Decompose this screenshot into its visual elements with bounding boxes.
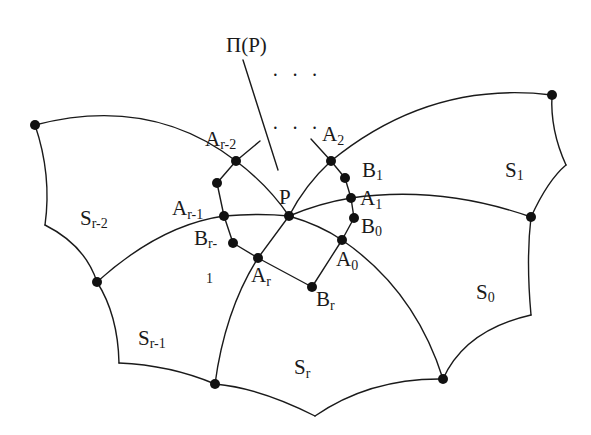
label-A-r-2: Ar-2 bbox=[205, 127, 236, 152]
node-A-2 bbox=[326, 156, 336, 166]
node-A-0 bbox=[337, 235, 347, 245]
node-outer-top-right bbox=[547, 90, 557, 100]
node-B-0 bbox=[349, 213, 359, 223]
label-pi-P: Π(P) bbox=[226, 33, 267, 57]
edge-outer-left-mid bbox=[45, 225, 97, 282]
label-B-r-1-stray-digit: 1 bbox=[206, 271, 213, 286]
edge-P-Ar bbox=[258, 216, 289, 258]
label-A-r: Ar bbox=[251, 263, 271, 289]
node-A-r-2 bbox=[231, 156, 241, 166]
node-P bbox=[284, 211, 294, 221]
node-outer-bottom-right bbox=[438, 374, 448, 384]
label-B-0: B0 bbox=[361, 214, 382, 239]
edge-P-Ar1 bbox=[224, 215, 289, 217]
node-A-r bbox=[253, 253, 263, 263]
node-A-1 bbox=[346, 193, 356, 203]
edge-outer-bottom-left bbox=[119, 363, 215, 384]
edge-outer-left-upper bbox=[35, 125, 47, 225]
edge-outer-bottom-right bbox=[443, 315, 531, 379]
label-S-r: Sr bbox=[294, 355, 311, 381]
edge-outer-left-lower bbox=[97, 282, 119, 363]
edge-outer-right-lower bbox=[529, 217, 532, 315]
label-B-r-1: Br- bbox=[194, 226, 217, 251]
edge-outer-right-upper bbox=[552, 95, 566, 165]
label-S-r-2: Sr-2 bbox=[80, 206, 108, 231]
edge-outer-bottom-mid-right bbox=[315, 379, 443, 416]
node-outer-right bbox=[526, 212, 536, 222]
ellipsis-top: · · · bbox=[272, 64, 322, 86]
node-outer-bottom-left bbox=[210, 379, 220, 389]
edge-P-A0 bbox=[289, 216, 342, 240]
edge-outer-right-mid bbox=[531, 165, 566, 217]
node-B-r-1 bbox=[228, 238, 238, 248]
label-S-r-1: Sr-1 bbox=[138, 326, 166, 351]
label-A-r-1: Ar-1 bbox=[172, 196, 203, 222]
label-B-r: Br bbox=[316, 287, 335, 313]
node-outer-top-left bbox=[30, 120, 40, 130]
edge-outer-bottom-mid-left bbox=[215, 384, 315, 416]
node-outer-left bbox=[92, 277, 102, 287]
label-S-1: S1 bbox=[505, 158, 524, 183]
label-B-1: B1 bbox=[362, 158, 383, 183]
node-A-r-1 bbox=[219, 211, 229, 221]
node-B-1 bbox=[340, 173, 350, 183]
edge-cycle-B-Ar1 bbox=[217, 183, 224, 216]
diagram-canvas: Π(P) · · · · · · P Ar-2 A2 B1 A1 B0 A0 A… bbox=[0, 0, 591, 435]
node-B-r-2 bbox=[212, 178, 222, 188]
ellipsis-mid: · · · bbox=[272, 117, 322, 139]
label-A-0: A0 bbox=[336, 247, 358, 273]
label-S-0: S0 bbox=[476, 280, 495, 305]
label-A-2: A2 bbox=[322, 122, 344, 148]
edge-outer-top-right bbox=[331, 93, 552, 161]
label-A-1: A1 bbox=[360, 186, 382, 212]
label-P: P bbox=[279, 185, 291, 209]
